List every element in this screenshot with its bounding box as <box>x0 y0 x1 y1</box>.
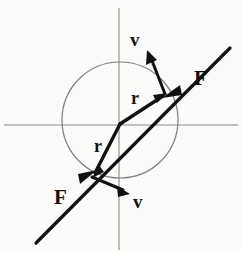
velocity-arrowhead-lower <box>117 186 130 197</box>
diagram-canvas <box>0 0 242 254</box>
velocity-vector-upper <box>151 58 165 94</box>
velocity-label-lower: v <box>133 192 143 211</box>
vector-diagram-figure: v F r r F v <box>0 0 242 254</box>
radius-label-upper: r <box>131 89 139 107</box>
force-label-upper: F <box>194 68 207 89</box>
velocity-label-upper: v <box>130 30 140 49</box>
radius-label-lower: r <box>94 137 102 155</box>
force-label-lower: F <box>54 187 67 208</box>
